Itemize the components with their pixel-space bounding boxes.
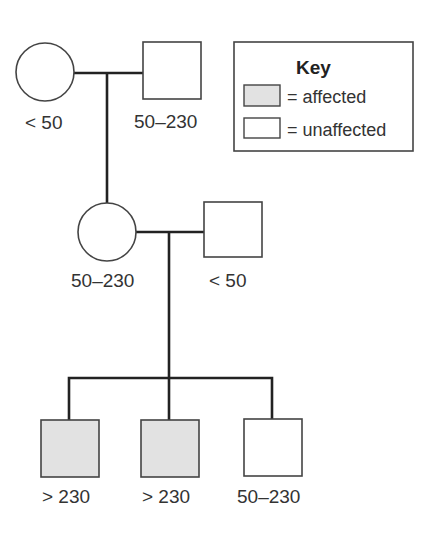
unaffected-swatch	[244, 118, 280, 138]
generation-1: < 50 50–230	[16, 42, 201, 204]
label-gen1-female: < 50	[25, 112, 63, 133]
label-child-1: > 230	[42, 486, 90, 507]
label-gen2-male: < 50	[209, 270, 247, 291]
generation-2: 50–230 < 50	[71, 202, 262, 378]
label-gen1-male: 50–230	[134, 111, 197, 132]
female-unaffected-gen2	[78, 203, 136, 261]
label-gen2-female: 50–230	[71, 270, 134, 291]
affected-swatch	[244, 85, 280, 106]
key-title: Key	[296, 57, 331, 78]
sibship-line	[69, 378, 272, 420]
legend-key: Key = affected = unaffected	[234, 42, 413, 151]
label-child-3: 50–230	[237, 486, 300, 507]
male-affected-child-2	[141, 420, 199, 477]
male-affected-child-1	[41, 420, 99, 477]
generation-3: > 230 > 230 50–230	[41, 378, 302, 507]
male-unaffected-child-3	[244, 419, 302, 476]
key-unaffected-label: = unaffected	[287, 120, 386, 140]
male-unaffected-gen1	[143, 42, 201, 99]
key-affected-label: = affected	[287, 87, 366, 107]
female-unaffected-gen1	[16, 43, 74, 101]
label-child-2: > 230	[142, 486, 190, 507]
male-unaffected-gen2	[204, 202, 262, 257]
pedigree-diagram: < 50 50–230 50–230 < 50 > 230 > 230 50–2…	[0, 0, 438, 546]
